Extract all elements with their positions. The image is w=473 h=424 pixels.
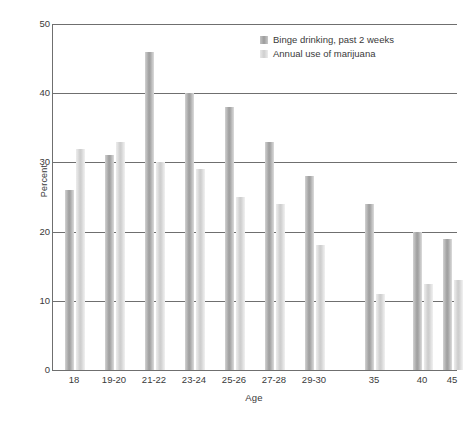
x-tick-label: 19-20 bbox=[102, 374, 126, 385]
x-tick-label: 25-26 bbox=[222, 374, 246, 385]
bar bbox=[236, 197, 245, 370]
bar bbox=[116, 142, 125, 370]
legend-item: Annual use of marijuana bbox=[260, 47, 394, 60]
legend-swatch-icon bbox=[260, 50, 268, 58]
x-tick-label: 23-24 bbox=[182, 374, 206, 385]
bar bbox=[413, 232, 422, 370]
bar bbox=[145, 52, 154, 370]
bar bbox=[454, 280, 463, 370]
bar bbox=[265, 142, 274, 370]
x-tick-label: 40 bbox=[417, 374, 428, 385]
y-tick-label: 10 bbox=[28, 296, 50, 306]
bar bbox=[443, 239, 452, 370]
legend-label: Annual use of marijuana bbox=[273, 48, 375, 59]
chart-legend: Binge drinking, past 2 weeksAnnual use o… bbox=[260, 33, 394, 61]
legend-item: Binge drinking, past 2 weeks bbox=[260, 33, 394, 46]
x-tick-label: 35 bbox=[369, 374, 380, 385]
x-tick-label: 29-30 bbox=[302, 374, 326, 385]
x-tick-label: 18 bbox=[69, 374, 80, 385]
plot-area bbox=[52, 24, 457, 371]
x-axis-ticks: 1819-2021-2223-2425-2627-2829-30354045 bbox=[52, 374, 456, 390]
bar bbox=[76, 149, 85, 370]
x-tick-label: 45 bbox=[447, 374, 458, 385]
bar bbox=[305, 176, 314, 370]
bar-chart: Percent 01020304050 1819-2021-2223-2425-… bbox=[0, 0, 473, 424]
y-tick-label: 40 bbox=[28, 88, 50, 98]
bar bbox=[225, 107, 234, 370]
bar bbox=[156, 162, 165, 370]
bar bbox=[196, 169, 205, 370]
bar bbox=[376, 294, 385, 370]
legend-label: Binge drinking, past 2 weeks bbox=[273, 34, 394, 45]
y-tick-label: 20 bbox=[28, 227, 50, 237]
y-tick-label: 30 bbox=[28, 157, 50, 167]
bar bbox=[424, 284, 433, 371]
bar bbox=[185, 93, 194, 370]
x-tick-label: 21-22 bbox=[142, 374, 166, 385]
bar bbox=[65, 190, 74, 370]
bar bbox=[276, 204, 285, 370]
bar bbox=[365, 204, 374, 370]
x-tick-label: 27-28 bbox=[262, 374, 286, 385]
bars-layer bbox=[53, 24, 457, 370]
y-tick-label: 0 bbox=[28, 365, 50, 375]
bar bbox=[316, 245, 325, 370]
y-tick-label: 50 bbox=[28, 19, 50, 29]
bar bbox=[105, 155, 114, 370]
legend-swatch-icon bbox=[260, 36, 268, 44]
y-axis-ticks: 01020304050 bbox=[24, 0, 50, 424]
x-axis-title: Age bbox=[52, 392, 456, 403]
